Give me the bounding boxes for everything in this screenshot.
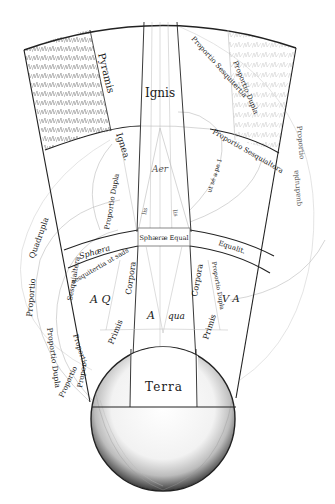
label-proportio-left: Proportio	[25, 278, 37, 317]
label-aq: A Q	[89, 293, 110, 306]
label-corpora-right: Corpora	[190, 263, 205, 298]
label-equalit: Equalit.	[217, 239, 246, 255]
label-primis-left: Primis	[107, 318, 125, 345]
label-ut-seq-right: ut sé a pe 1	[205, 158, 224, 194]
label-ignea: Ignea.	[114, 132, 132, 162]
label-lis-right: lis	[172, 209, 180, 217]
label-primis-right: Primis	[201, 313, 218, 341]
terra-globe	[91, 347, 236, 491]
label-proportio-dupla-inner: Proportio Dupla	[103, 173, 121, 230]
label-quadrupla-right: quadrupla	[292, 170, 303, 207]
label-terra: Terra	[145, 380, 183, 394]
label-ignis: Ignis	[145, 86, 175, 100]
label-aqua-qua: qua	[168, 311, 185, 321]
elemental-spheres-diagram: Ignis Aer A qua Terra Pyramis Ignea. Pro…	[0, 0, 335, 504]
label-proportio-right: Proportio	[295, 125, 306, 159]
label-lis-left: lis	[140, 207, 148, 215]
label-sphaera-equal: Sphæræ Equal	[139, 234, 188, 242]
label-proportio-dupla-left: Proportio Dupla	[45, 327, 62, 389]
label-quadrupla-left: Quadrupla	[27, 216, 50, 260]
hatched-pyramis-block	[24, 30, 111, 150]
label-aqua-a: A	[146, 309, 155, 322]
label-aer: Aer	[151, 164, 169, 174]
